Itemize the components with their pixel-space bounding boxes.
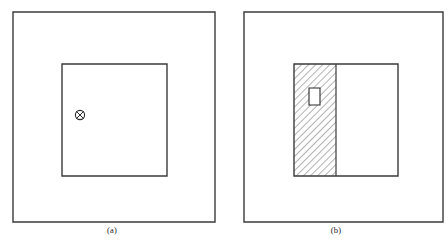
panel-a-drawing: [0, 0, 224, 224]
panel-a: (a): [0, 0, 224, 251]
panel-b: (b): [224, 0, 448, 251]
panel-b-hatched-region: [294, 64, 336, 176]
panel-b-small-rectangle: [309, 88, 320, 105]
panel-b-caption: (b): [224, 224, 448, 236]
panel-a-caption: (a): [0, 224, 224, 236]
vector-into-page-icon: [75, 110, 84, 119]
panel-a-inner-square: [62, 64, 167, 176]
panel-b-outer-square: [244, 12, 443, 222]
figure-root: (a) (b): [0, 0, 448, 251]
panel-b-drawing: [224, 0, 448, 224]
panel-a-outer-square: [13, 12, 215, 222]
